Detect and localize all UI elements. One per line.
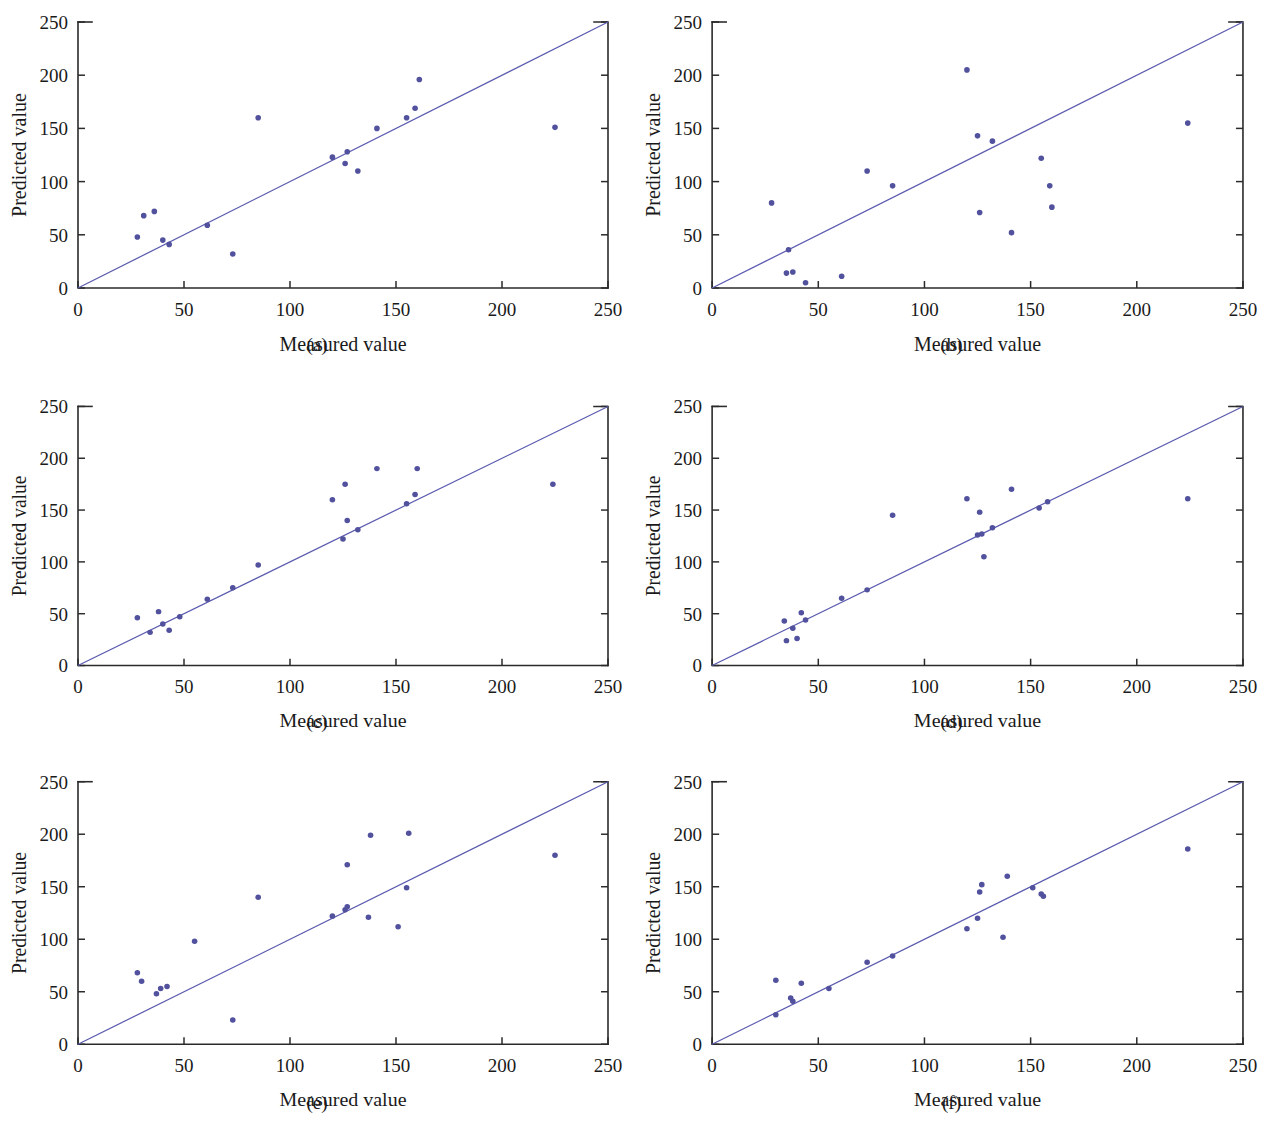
data-point — [990, 525, 996, 530]
x-tick-label: 0 — [707, 676, 717, 697]
x-tick-label: 150 — [1016, 1055, 1045, 1076]
data-point — [205, 222, 211, 228]
data-point — [977, 210, 983, 216]
data-point — [803, 280, 809, 286]
y-tick-label: 150 — [674, 118, 703, 139]
y-tick-label: 0 — [693, 656, 703, 677]
data-point — [839, 273, 845, 279]
y-tick-label: 50 — [49, 225, 68, 246]
data-point — [342, 161, 348, 167]
data-point — [979, 882, 985, 888]
data-point — [152, 209, 158, 215]
plot-area-b: 050100150200250050100150200250Measured v… — [634, 0, 1269, 385]
data-point — [160, 237, 166, 243]
data-point — [769, 200, 775, 206]
data-point — [414, 466, 420, 471]
data-point — [1045, 499, 1051, 504]
data-point — [890, 183, 896, 189]
data-point — [864, 168, 870, 174]
data-point — [166, 628, 172, 633]
x-tick-label: 100 — [276, 676, 304, 697]
x-tick-label: 0 — [73, 676, 82, 697]
data-point — [790, 269, 796, 275]
x-tick-label: 250 — [594, 676, 622, 697]
data-point — [964, 496, 970, 501]
data-point — [230, 251, 236, 257]
data-point — [154, 991, 160, 997]
data-point — [1036, 505, 1042, 510]
x-tick-label: 0 — [707, 299, 717, 320]
data-point — [773, 1012, 779, 1018]
data-point — [864, 960, 870, 966]
data-point — [135, 615, 141, 620]
y-tick-label: 200 — [674, 448, 703, 469]
y-tick-label: 100 — [674, 552, 703, 573]
x-tick-label: 150 — [1016, 676, 1045, 697]
data-point — [412, 105, 418, 111]
plot-area-e: 050100150200250050100150200250Measured v… — [0, 760, 634, 1140]
x-tick-label: 200 — [488, 1055, 516, 1076]
data-point — [977, 889, 983, 895]
data-point — [1047, 183, 1053, 189]
data-point — [1185, 496, 1191, 501]
data-point — [798, 610, 804, 615]
x-tick-label: 250 — [1229, 1055, 1258, 1076]
y-tick-label: 0 — [59, 1034, 68, 1055]
data-point — [552, 852, 558, 858]
y-tick-label: 150 — [40, 877, 68, 898]
x-tick-label: 150 — [382, 1055, 410, 1076]
y-tick-label: 0 — [59, 278, 69, 299]
scatter-panel-c: 050100150200250050100150200250Measured v… — [0, 385, 634, 760]
data-point — [374, 126, 380, 132]
data-point — [975, 915, 981, 921]
y-tick-label: 200 — [40, 824, 68, 845]
x-tick-label: 0 — [707, 1055, 717, 1076]
y-tick-label: 150 — [40, 118, 69, 139]
data-point — [177, 614, 183, 619]
data-point — [205, 596, 211, 601]
x-tick-label: 200 — [1123, 299, 1152, 320]
data-point — [826, 986, 832, 992]
data-point — [979, 531, 985, 536]
panel-caption-a: (a) — [0, 334, 634, 356]
data-point — [374, 466, 380, 471]
plot-area-a: 050100150200250050100150200250Measured v… — [0, 0, 634, 385]
x-tick-label: 150 — [382, 676, 410, 697]
y-tick-label: 250 — [40, 12, 69, 33]
data-point — [355, 168, 361, 174]
data-points-a — [135, 77, 558, 257]
x-tick-label: 200 — [1123, 1055, 1152, 1076]
data-point — [864, 587, 870, 592]
y-tick-label: 150 — [674, 877, 703, 898]
data-point — [977, 509, 983, 514]
data-point — [366, 914, 372, 920]
x-tick-label: 100 — [276, 1055, 304, 1076]
data-point — [981, 554, 987, 559]
data-point — [790, 998, 796, 1004]
y-tick-label: 50 — [49, 604, 68, 625]
identity-reference-line — [78, 782, 608, 1045]
y-tick-label: 100 — [40, 929, 68, 950]
data-point — [1030, 885, 1036, 891]
figure-panel-grid: 050100150200250050100150200250Measured v… — [0, 0, 1269, 1140]
y-axis-title: Predicted value — [642, 475, 664, 596]
plot-area-c: 050100150200250050100150200250Measured v… — [0, 385, 634, 760]
data-point — [404, 115, 410, 121]
x-tick-label: 100 — [910, 299, 939, 320]
panel-caption-b: (b) — [634, 334, 1269, 356]
data-point — [773, 977, 779, 983]
data-point — [330, 913, 336, 919]
x-tick-label: 150 — [382, 299, 411, 320]
x-tick-label: 50 — [809, 299, 828, 320]
y-tick-label: 0 — [693, 1034, 703, 1055]
y-tick-label: 100 — [674, 929, 703, 950]
data-point — [255, 894, 261, 900]
data-point — [230, 1017, 236, 1023]
data-point — [230, 585, 236, 590]
data-point — [890, 953, 896, 959]
data-point — [1038, 155, 1044, 161]
y-tick-label: 50 — [49, 982, 68, 1003]
data-point — [330, 154, 336, 160]
data-point — [890, 513, 896, 518]
scatter-panel-e: 050100150200250050100150200250Measured v… — [0, 760, 634, 1140]
